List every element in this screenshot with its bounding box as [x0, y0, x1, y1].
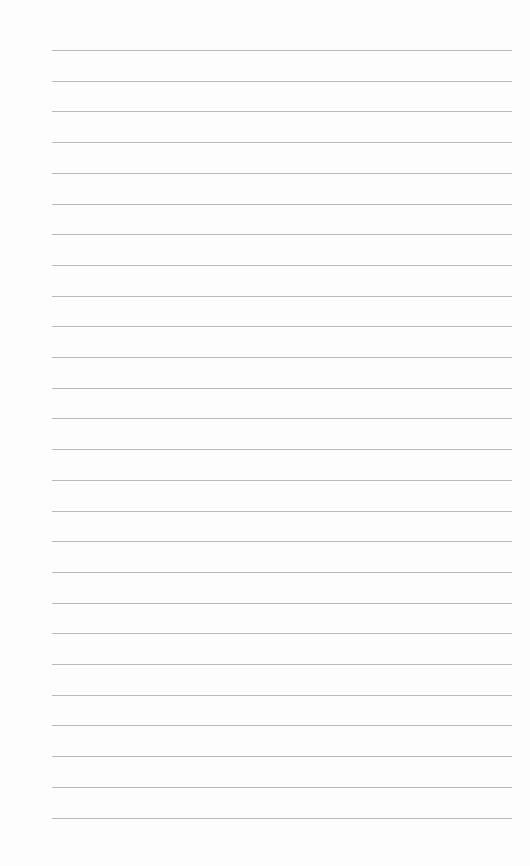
- ruled-line: [52, 725, 512, 726]
- ruled-line: [52, 296, 512, 297]
- ruled-line: [52, 204, 512, 205]
- lined-paper-page: [0, 0, 530, 866]
- ruled-line: [52, 511, 512, 512]
- ruled-line: [52, 787, 512, 788]
- ruled-line: [52, 572, 512, 573]
- ruled-line: [52, 265, 512, 266]
- ruled-line: [52, 756, 512, 757]
- ruled-line: [52, 603, 512, 604]
- ruled-line: [52, 418, 512, 419]
- ruled-line: [52, 664, 512, 665]
- ruled-line: [52, 449, 512, 450]
- ruled-line: [52, 142, 512, 143]
- ruled-line: [52, 480, 512, 481]
- ruled-line: [52, 357, 512, 358]
- ruled-line: [52, 633, 512, 634]
- ruled-line: [52, 541, 512, 542]
- ruled-line: [52, 326, 512, 327]
- ruled-line: [52, 234, 512, 235]
- ruled-line: [52, 818, 512, 819]
- ruled-line: [52, 111, 512, 112]
- ruled-line: [52, 388, 512, 389]
- ruled-line: [52, 50, 512, 51]
- ruled-line: [52, 695, 512, 696]
- ruled-line: [52, 173, 512, 174]
- ruled-line: [52, 81, 512, 82]
